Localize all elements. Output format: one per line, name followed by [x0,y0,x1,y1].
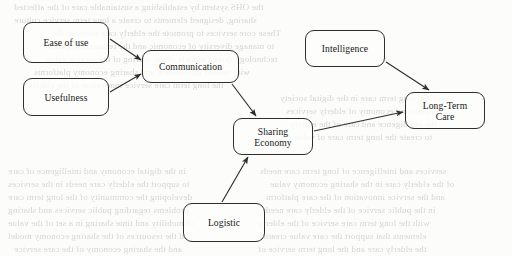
node-intelligence[interactable]: Intelligence [305,30,385,67]
node-sharing-economy[interactable]: SharingEconomy [233,118,313,155]
node-logistic[interactable]: Logistic [183,203,265,242]
node-label: Usefulness [44,92,87,103]
diagram-canvas: the OHS system by establishing a sustain… [0,0,512,256]
edge-ease-to-communication [110,39,141,60]
node-label: Ease of use [44,37,89,48]
node-label: Logistic [208,217,240,228]
node-label: Long-TermCare [423,100,467,122]
node-label: Intelligence [322,43,368,54]
edge-usefulness-to-communication [110,74,141,92]
node-ease-of-use[interactable]: Ease of use [23,22,109,63]
edge-sharing-to-care [314,112,403,131]
node-label: SharingEconomy [254,126,291,148]
edge-intelligence-to-care [386,62,429,90]
node-label: Communication [159,61,222,72]
node-usefulness[interactable]: Usefulness [23,78,109,116]
node-communication[interactable]: Communication [142,50,239,83]
edge-communication-to-sharing [232,84,256,116]
node-long-term-care[interactable]: Long-TermCare [405,92,485,129]
edge-logistic-to-sharing [222,157,248,202]
